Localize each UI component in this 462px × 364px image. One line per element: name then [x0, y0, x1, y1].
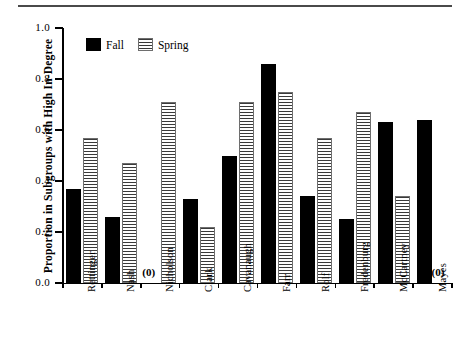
category-label-rolf: Rolf [321, 202, 332, 292]
category-label-fredenburg: Fredenburg [360, 202, 371, 292]
y-tick-mark [55, 27, 63, 29]
category-label-mayes: Mayes [438, 202, 449, 292]
category-label-farr: Farr [282, 202, 293, 292]
y-tick-label: 0.2 [10, 226, 50, 237]
x-tick-mark [373, 283, 375, 288]
x-tick-mark [296, 283, 298, 288]
category-label-nash: Nash [126, 202, 137, 292]
bar-fall-mccartney [378, 122, 393, 283]
bar-fall-farr [261, 64, 276, 283]
bar-fall-cavanaugh [222, 156, 237, 284]
y-tick-label: 0.0 [10, 277, 50, 288]
y-axis-line [62, 28, 64, 284]
legend-label-fall: Fall [106, 39, 124, 51]
bar-fall-rettinger [66, 189, 81, 283]
category-label-nicholson: Nicholson [165, 202, 176, 292]
y-tick-label: 0.8 [10, 73, 50, 84]
bar-fall-rolf [300, 196, 315, 283]
x-tick-mark [140, 283, 142, 288]
y-tick-label: 1.0 [10, 22, 50, 33]
bar-fall-mayes [417, 120, 432, 283]
top-rule-divider [18, 5, 452, 7]
x-tick-mark [62, 283, 64, 288]
figure-container: Proportion in Subgroups with High In-Deg… [0, 0, 462, 364]
bar-fall-clark [183, 199, 198, 283]
x-tick-mark [335, 283, 337, 288]
y-tick-mark [55, 78, 63, 80]
bar-fall-nash [105, 217, 120, 283]
y-tick-label: 0.6 [10, 124, 50, 135]
x-tick-mark [451, 283, 453, 288]
chart-legend: Fall Spring [86, 38, 189, 51]
x-tick-mark [179, 283, 181, 288]
legend-item-spring: Spring [138, 38, 189, 51]
y-tick-label: 0.4 [10, 175, 50, 186]
bar-fall-fredenburg [339, 219, 354, 283]
legend-item-fall: Fall [86, 38, 124, 51]
y-axis-title: Proportion in Subgroups with High In-Deg… [42, 26, 54, 286]
legend-label-spring: Spring [158, 39, 189, 51]
category-label-rettinger: Rettinger [87, 202, 98, 292]
y-tick-mark [55, 180, 63, 182]
legend-swatch-fall-icon [86, 38, 101, 51]
legend-swatch-spring-icon [138, 38, 153, 51]
category-label-clark: Clark [204, 202, 215, 292]
category-label-mccartney: McCartney [399, 202, 410, 292]
x-tick-mark [257, 283, 259, 288]
category-label-cavanaugh: Cavanaugh [243, 202, 254, 292]
x-tick-mark [101, 283, 103, 288]
x-tick-mark [412, 283, 414, 288]
y-tick-mark [55, 231, 63, 233]
zero-value-annotation: (0) [142, 267, 155, 278]
x-tick-mark [218, 283, 220, 288]
y-tick-mark [55, 129, 63, 131]
